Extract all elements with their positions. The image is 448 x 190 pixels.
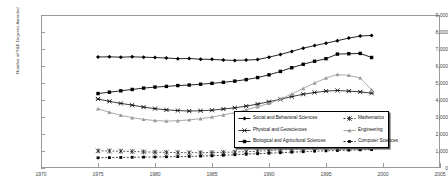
- x-tick-label: 2005: [434, 171, 445, 177]
- legend-item[interactable]: Computer Sciences: [343, 136, 393, 148]
- data-point-cross-x: [242, 128, 247, 132]
- y-tick-label: 9,000: [414, 12, 448, 18]
- y-tick-label: 5,000: [414, 80, 448, 86]
- y-tick-label: 4,000: [414, 97, 448, 103]
- legend-label: Mathematics: [358, 116, 384, 121]
- y-tick-label: 8,000: [414, 29, 448, 35]
- y-tick-mark: [41, 168, 45, 169]
- chart-legend: Social and Behavioral SciencesMathematic…: [234, 111, 389, 148]
- y-tick-label: 2,000: [414, 131, 448, 137]
- x-tick-label: 1970: [35, 171, 46, 177]
- y-tick-mark: [41, 117, 45, 118]
- legend-label: Social and Behavioral Sciences: [253, 116, 317, 121]
- legend-label: Biological and Agricultural Sciences: [253, 139, 326, 144]
- x-tick-mark: [383, 163, 384, 168]
- legend-item[interactable]: Social and Behavioral Sciences: [238, 113, 343, 125]
- x-tick-label: 2000: [377, 171, 388, 177]
- data-point-square: [243, 140, 246, 143]
- x-tick-mark: [326, 163, 327, 168]
- x-tick-mark: [98, 163, 99, 168]
- x-tick-mark: [440, 163, 441, 168]
- x-tick-label: 1985: [206, 171, 217, 177]
- legend-marker-square-small-icon: [343, 138, 356, 145]
- legend-item[interactable]: Engineering: [343, 124, 393, 136]
- legend-marker-square-icon: [238, 138, 251, 145]
- legend-item[interactable]: Biological and Agricultural Sciences: [238, 136, 343, 148]
- legend-marker-star-x-icon: [343, 115, 356, 122]
- y-tick-label: 3,000: [414, 114, 448, 120]
- y-axis-title: Number of S&E Degrees Awarded: [15, 0, 20, 106]
- y-tick-mark: [41, 15, 45, 16]
- data-point-diamond: [243, 117, 247, 121]
- y-tick-label: 1,000: [414, 148, 448, 154]
- legend-marker-triangle-icon: [343, 127, 356, 134]
- legend-item[interactable]: Physical and Geosciences: [238, 124, 343, 136]
- x-tick-label: 1990: [263, 171, 274, 177]
- legend-label: Computer Sciences: [358, 139, 398, 144]
- y-tick-mark: [41, 100, 45, 101]
- x-tick-label: 1975: [92, 171, 103, 177]
- y-tick-mark: [41, 32, 45, 33]
- legend-label: Physical and Geosciences: [253, 128, 307, 133]
- legend-marker-cross-x-icon: [238, 127, 251, 134]
- x-tick-label: 1980: [149, 171, 160, 177]
- y-tick-mark: [41, 49, 45, 50]
- chart-container: Number of S&E Degrees Awarded 01,0002,00…: [0, 0, 448, 190]
- x-tick-label: 1995: [320, 171, 331, 177]
- legend-item[interactable]: Mathematics: [343, 113, 393, 125]
- x-tick-mark: [212, 163, 213, 168]
- y-tick-mark: [41, 66, 45, 67]
- y-tick-mark: [41, 83, 45, 84]
- x-tick-mark: [269, 163, 270, 168]
- y-tick-label: 6,000: [414, 63, 448, 69]
- legend-label: Engineering: [358, 128, 383, 133]
- y-tick-label: 7,000: [414, 46, 448, 52]
- y-tick-mark: [41, 134, 45, 135]
- y-tick-mark: [41, 151, 45, 152]
- data-point-square-small: [348, 140, 351, 143]
- x-tick-mark: [155, 163, 156, 168]
- legend-marker-diamond-icon: [238, 115, 251, 122]
